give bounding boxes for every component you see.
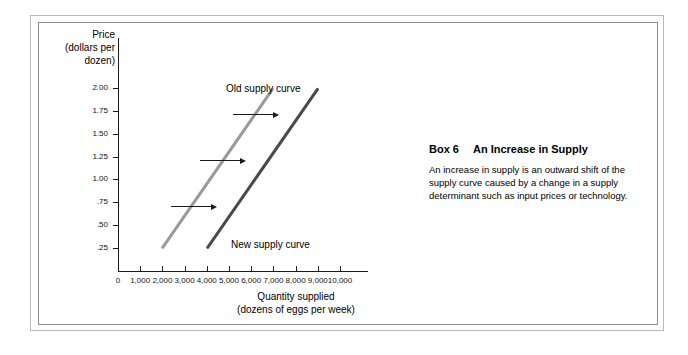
y-tick-mark <box>113 248 119 249</box>
x-tick-mark <box>207 266 208 272</box>
y-tick-label: 1.50 <box>68 130 108 138</box>
x-tick-mark <box>162 266 163 272</box>
shift-arrow-line <box>233 114 273 115</box>
y-tick-mark <box>113 88 119 89</box>
x-tick-mark <box>296 266 297 272</box>
box-body-text: An increase in supply is an outward shif… <box>429 163 634 202</box>
y-tick-mark <box>113 202 119 203</box>
shift-arrow-head <box>240 158 246 164</box>
shift-arrow-line <box>171 206 211 207</box>
box-number: Box 6 <box>429 143 459 155</box>
old-supply-curve <box>161 87 274 249</box>
y-axis-title-line-1: Price <box>15 28 115 41</box>
y-axis-title-line-2: (dollars per <box>15 41 115 54</box>
y-tick-mark <box>113 225 119 226</box>
new-supply-curve <box>206 87 319 249</box>
y-tick-label: .75 <box>68 198 108 206</box>
box-title: An Increase in Supply <box>473 143 588 155</box>
y-tick-label: 1.00 <box>68 175 108 183</box>
x-tick-mark <box>318 266 319 272</box>
figure-page: .25.50.751.001.251.501.752.00 01,0002,00… <box>0 0 688 355</box>
y-axis-title-line-3: dozen) <box>15 54 115 67</box>
y-tick-label: .25 <box>68 244 108 252</box>
x-tick-mark <box>340 266 341 272</box>
y-axis-line <box>118 38 119 272</box>
y-tick-label: 1.75 <box>68 107 108 115</box>
x-axis-title: Quantity supplied (dozens of eggs per we… <box>196 290 396 316</box>
y-axis-title: Price (dollars per dozen) <box>15 28 115 67</box>
box-heading: Box 6An Increase in Supply <box>429 142 634 156</box>
x-axis-title-line-2: (dozens of eggs per week) <box>196 303 396 316</box>
y-tick-mark <box>113 157 119 158</box>
y-tick-label: 2.00 <box>68 84 108 92</box>
x-axis-title-line-1: Quantity supplied <box>196 290 396 303</box>
x-tick-mark <box>140 266 141 272</box>
x-tick-mark <box>273 266 274 272</box>
y-tick-label: 1.25 <box>68 153 108 161</box>
box-caption: Box 6An Increase in Supply An increase i… <box>429 142 634 202</box>
shift-arrow-line <box>200 160 240 161</box>
x-tick-mark <box>229 266 230 272</box>
y-tick-label: .50 <box>68 221 108 229</box>
old-supply-curve-label: Old supply curve <box>226 83 300 95</box>
x-axis-line <box>118 271 368 272</box>
shift-arrow-head <box>273 112 279 118</box>
x-tick-mark <box>185 266 186 272</box>
shift-arrow-head <box>211 204 217 210</box>
x-tick-label: 10,000 <box>320 276 360 285</box>
new-supply-curve-label: New supply curve <box>231 239 310 251</box>
x-tick-mark <box>251 266 252 272</box>
y-tick-mark <box>113 111 119 112</box>
y-tick-mark <box>113 134 119 135</box>
y-tick-mark <box>113 179 119 180</box>
